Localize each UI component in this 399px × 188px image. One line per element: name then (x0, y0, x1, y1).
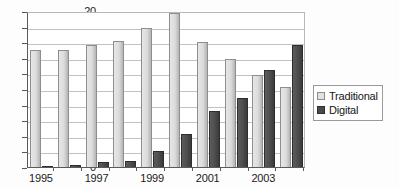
x-axis-tick-mark (248, 167, 249, 171)
y-axis-tick-mark (22, 168, 27, 169)
bar-traditional (58, 50, 69, 167)
bar-traditional (30, 50, 41, 167)
x-axis-tick-mark (53, 167, 54, 171)
bar-digital (98, 162, 109, 167)
bar-group (86, 13, 112, 167)
legend-label-digital: Digital (329, 104, 358, 116)
bar-digital (153, 151, 164, 167)
legend-label-traditional: Traditional (329, 90, 378, 102)
bar-digital (292, 45, 303, 167)
bar-group (58, 13, 84, 167)
bar-group (252, 13, 278, 167)
x-axis-tick-mark (81, 167, 82, 171)
bar-digital (209, 111, 220, 167)
x-axis-tick-label: 1995 (18, 172, 64, 184)
x-axis-tick-mark (220, 167, 221, 171)
bar-traditional (252, 75, 263, 167)
bar-traditional (141, 28, 152, 167)
bar-traditional (280, 87, 291, 167)
x-axis-tick-label: 2003 (240, 172, 286, 184)
x-axis-tick-label: 1999 (129, 172, 175, 184)
plot-area (27, 12, 305, 168)
x-axis-tick-mark (303, 167, 304, 171)
x-axis-tick-mark (109, 167, 110, 171)
bars-layer (28, 13, 304, 167)
x-axis-tick-label: 2001 (185, 172, 231, 184)
bar-group (280, 13, 306, 167)
bar-traditional (197, 42, 208, 167)
legend-swatch-digital-icon (317, 106, 325, 114)
bar-traditional (86, 45, 97, 167)
bar-digital (70, 165, 81, 167)
bar-digital (42, 166, 53, 167)
bar-digital (264, 70, 275, 167)
chart-legend: Traditional Digital (313, 85, 383, 121)
bar-chart-figure: 02468101214161820 19951997199920012003 T… (0, 0, 399, 188)
bar-group (113, 13, 139, 167)
x-axis-tick-mark (275, 167, 276, 171)
legend-item-digital: Digital (317, 103, 378, 117)
bar-digital (237, 98, 248, 167)
x-axis-tick-mark (164, 167, 165, 171)
x-axis-tick-mark (136, 167, 137, 171)
bar-group (169, 13, 195, 167)
bar-group (141, 13, 167, 167)
x-axis-tick-label: 1997 (74, 172, 120, 184)
bar-traditional (225, 59, 236, 167)
bar-traditional (113, 41, 124, 167)
bar-digital (181, 134, 192, 167)
bar-digital (125, 161, 136, 167)
bar-group (30, 13, 56, 167)
x-axis-tick-mark (192, 167, 193, 171)
legend-item-traditional: Traditional (317, 89, 378, 103)
bar-group (225, 13, 251, 167)
legend-swatch-traditional-icon (317, 92, 325, 100)
bar-traditional (169, 13, 180, 167)
bar-group (197, 13, 223, 167)
